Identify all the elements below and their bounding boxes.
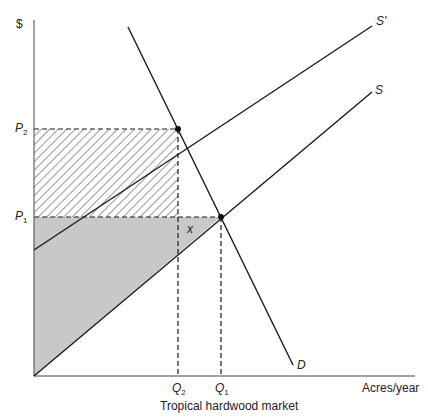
hatched-region [34,129,178,217]
q1-label: Q1 [215,381,229,397]
supply-s-prime-label: S' [376,14,386,28]
equilibrium-point-1 [218,214,224,220]
demand-d-label: D [297,358,306,372]
supply-s-label: S [375,83,383,97]
p2-label: P2 [15,121,27,137]
y-axis-label: $ [16,17,23,31]
region-x-label: x [187,222,193,236]
x-axis-label: Acres/year [362,381,419,395]
chart-caption: Tropical hardwood market [160,399,298,413]
q2-label: Q2 [172,381,186,397]
p1-label: P1 [15,209,27,225]
supply-demand-diagram [0,0,428,419]
equilibrium-point-2 [175,126,181,132]
